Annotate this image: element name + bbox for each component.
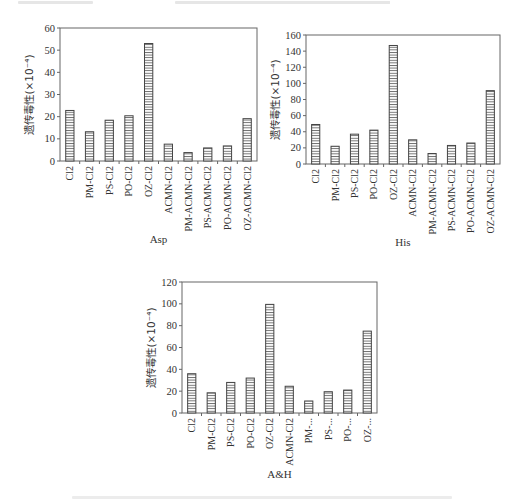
x-tick-label: PS-Cl2 — [225, 418, 236, 447]
x-tick-label: OZ-... — [362, 418, 373, 442]
x-tick-label: PM-Cl2 — [206, 418, 217, 450]
y-tick-label: 120 — [161, 277, 177, 288]
y-tick-label: 60 — [167, 342, 178, 353]
x-tick-label: PM-... — [303, 418, 314, 443]
y-tick-label: 100 — [161, 298, 177, 309]
bar — [227, 382, 235, 413]
y-tick-label: 40 — [167, 364, 178, 375]
x-tick-label: PO-... — [342, 418, 353, 442]
x-tick-label: ACMN-Cl2 — [284, 418, 295, 466]
bar — [188, 374, 196, 413]
chart-title: A&H — [267, 468, 292, 480]
x-tick-label: Cl2 — [186, 418, 197, 432]
bar — [285, 386, 293, 413]
x-tick-label: PO-Cl2 — [245, 418, 256, 449]
bar — [207, 393, 215, 413]
y-axis-label: 遗传毒性(×10⁻⁴) — [145, 307, 157, 387]
bar — [363, 331, 371, 413]
bar — [324, 392, 332, 413]
bar — [246, 378, 254, 413]
y-tick-label: 80 — [167, 320, 178, 331]
y-tick-label: 20 — [167, 386, 178, 397]
x-tick-label: OZ-Cl2 — [264, 418, 275, 449]
bar — [305, 401, 313, 413]
bar — [344, 390, 352, 413]
x-tick-label: PS-... — [323, 418, 334, 440]
bar — [266, 304, 274, 413]
y-tick-label: 0 — [172, 408, 177, 419]
